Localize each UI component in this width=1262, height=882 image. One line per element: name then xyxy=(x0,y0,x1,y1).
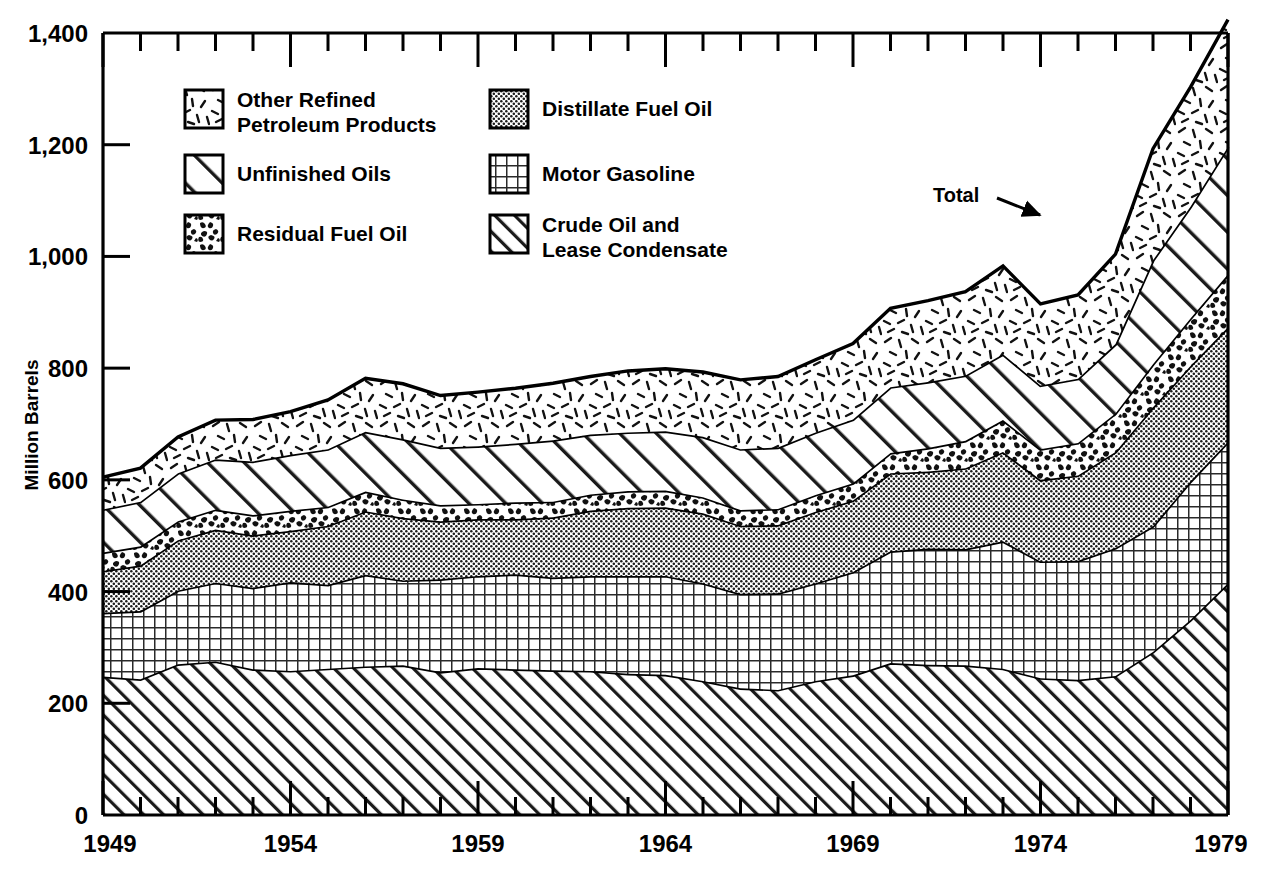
legend-swatch-motor_gasoline xyxy=(490,155,528,193)
y-tick-label: 200 xyxy=(48,690,88,717)
legend-label-other_refined-line2: Petroleum Products xyxy=(237,113,437,136)
x-tick-label: 1959 xyxy=(451,830,504,857)
x-tick-label: 1949 xyxy=(83,830,136,857)
x-tick-label: 1969 xyxy=(826,830,879,857)
y-tick-label: 1,200 xyxy=(28,132,88,159)
legend-swatch-unfinished xyxy=(185,155,223,193)
legend-label-crude: Crude Oil and xyxy=(542,213,680,236)
x-tick-label: 1954 xyxy=(264,830,318,857)
legend-swatch-crude xyxy=(490,215,528,253)
figure-root: 02004006008001,0001,2001,400 19491954195… xyxy=(0,0,1262,882)
x-tick-label: 1974 xyxy=(1014,830,1068,857)
legend-label-residual: Residual Fuel Oil xyxy=(237,222,407,245)
legend-label-unfinished: Unfinished Oils xyxy=(237,162,391,185)
stacked-area-chart: 02004006008001,0001,2001,400 19491954195… xyxy=(0,0,1262,882)
legend-swatch-other_refined xyxy=(185,90,223,128)
y-tick-label: 0 xyxy=(75,802,88,829)
y-axis-title: Million Barrels xyxy=(21,360,42,491)
y-tick-label: 1,000 xyxy=(28,243,88,270)
x-tick-label: 1964 xyxy=(639,830,693,857)
total-annotation: Total xyxy=(933,184,979,206)
legend-label-distillate: Distillate Fuel Oil xyxy=(542,97,712,120)
y-tick-label: 1,400 xyxy=(28,20,88,47)
y-tick-label: 800 xyxy=(48,355,88,382)
legend-label-crude-line2: Lease Condensate xyxy=(542,238,728,261)
legend-label-other_refined: Other Refined xyxy=(237,88,376,111)
y-tick-label: 400 xyxy=(48,579,88,606)
legend-label-motor_gasoline: Motor Gasoline xyxy=(542,162,695,185)
x-tick-label: 1979 xyxy=(1194,830,1247,857)
x-tick-labels: 1949195419591964196919741979 xyxy=(83,830,1247,857)
legend-swatch-residual xyxy=(185,215,223,253)
total-annotation-label: Total xyxy=(933,184,979,206)
legend-swatch-distillate xyxy=(490,90,528,128)
y-tick-label: 600 xyxy=(48,467,88,494)
